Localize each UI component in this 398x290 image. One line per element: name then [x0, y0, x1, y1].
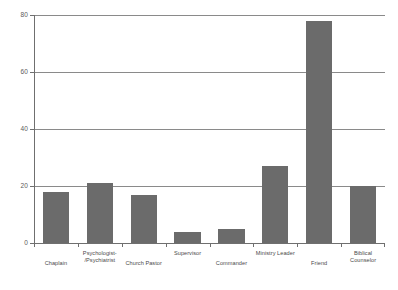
bar [350, 186, 376, 243]
bar [174, 232, 200, 243]
x-tick-mark [78, 243, 79, 247]
bar [43, 192, 69, 243]
x-tick-label: Psychologist- /Psychiatrist [83, 250, 117, 264]
bar [306, 21, 332, 243]
x-tick-mark [122, 243, 123, 247]
x-tick-mark [253, 243, 254, 247]
x-tick-label: Chaplain [45, 260, 67, 267]
x-tick-label: Biblical Counselor [350, 250, 376, 264]
x-tick-mark [210, 243, 211, 247]
bar [218, 229, 244, 243]
y-axis-labels: 020406080 [0, 0, 34, 290]
x-tick-mark [297, 243, 298, 247]
x-axis-labels: ChaplainPsychologist- /PsychiatristChurc… [34, 248, 385, 288]
bar-chart: 020406080 ChaplainPsychologist- /Psychia… [0, 0, 398, 290]
x-tick-mark [384, 243, 385, 247]
bar [262, 166, 288, 243]
x-tick-label: Friend [311, 260, 327, 267]
y-tick-label: 60 [21, 69, 28, 76]
bar [131, 195, 157, 243]
x-tick-mark [166, 243, 167, 247]
bar-series [34, 15, 385, 243]
bar [87, 183, 113, 243]
y-tick-label: 80 [21, 12, 28, 19]
x-tick-label: Supervisor [174, 250, 201, 257]
x-tick-mark [34, 243, 35, 247]
y-tick-label: 40 [21, 126, 28, 133]
x-tick-label: Ministry Leader [256, 250, 295, 257]
x-tick-label: Church Pastor [125, 260, 161, 267]
x-tick-mark [341, 243, 342, 247]
y-tick-label: 0 [24, 240, 28, 247]
x-tick-label: Commander [216, 260, 247, 267]
y-tick-label: 20 [21, 183, 28, 190]
